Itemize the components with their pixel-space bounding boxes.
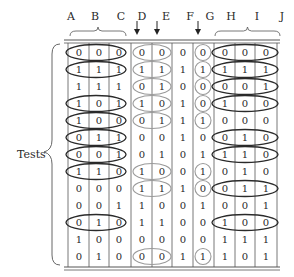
matrix-cell: 1 [109,129,129,146]
matrix-cell: 0 [89,44,109,61]
matrix-cell: 1 [152,112,172,129]
matrix-cell: 1 [215,146,235,163]
matrix-cell: 0 [235,248,255,265]
matrix-cell: 1 [69,61,89,78]
matrix-cell: 1 [256,231,276,248]
matrix-cell: 0 [152,95,172,112]
matrix-cell: 0 [256,214,276,231]
matrix-cell: 1 [132,180,152,197]
matrix-cell: 1 [152,61,172,78]
matrix-cell: 0 [173,44,193,61]
matrix-cell: 0 [109,214,129,231]
matrix-cell: 1 [173,95,193,112]
matrix-cell: 0 [89,112,109,129]
matrix-cell: 0 [256,129,276,146]
matrix-cell: 1 [215,231,235,248]
matrix-cell: 0 [89,146,109,163]
matrix-cell: 1 [193,197,213,214]
matrix-cell: 0 [256,112,276,129]
matrix-cell: 0 [109,180,129,197]
matrix-cell: 1 [109,61,129,78]
matrix-cell: 0 [109,112,129,129]
matrix-cell: 0 [193,214,213,231]
matrix-cell: 0 [132,231,152,248]
matrix-cell: 1 [256,180,276,197]
matrix-cell: 1 [173,129,193,146]
row-label-tests: Tests [17,148,46,161]
matrix-cell: 0 [109,231,129,248]
matrix-cell: 1 [235,163,255,180]
matrix-cell: 0 [69,197,89,214]
matrix-cell: 0 [256,163,276,180]
matrix-cell: 1 [256,61,276,78]
matrix-cell: 0 [235,95,255,112]
matrix-cell: 1 [132,95,152,112]
matrix-cell: 1 [215,61,235,78]
matrix-cell: 1 [193,163,213,180]
matrix-cell: 1 [89,248,109,265]
matrix-cell: 1 [256,78,276,95]
matrix-cell: 1 [89,129,109,146]
matrix-cell: 0 [235,112,255,129]
matrix-cell: 0 [69,214,89,231]
matrix-cell: 1 [69,163,89,180]
matrix-cell: 1 [152,180,172,197]
matrix-cell: 0 [193,231,213,248]
matrix-cell: 1 [109,95,129,112]
matrix-cell: 0 [89,180,109,197]
matrix-cell: 1 [152,78,172,95]
column-header-f: F [186,10,194,23]
matrix-cell: 0 [152,248,172,265]
column-header-j: J [280,10,284,23]
matrix-cell: 1 [132,61,152,78]
matrix-cell: 0 [89,197,109,214]
column-header-a: A [67,10,75,23]
column-header-e: E [162,10,170,23]
matrix-cell: 0 [152,129,172,146]
matrix-cell: 0 [193,95,213,112]
matrix-cell: 1 [89,163,109,180]
matrix-cell: 1 [69,78,89,95]
matrix-cell: 1 [235,146,255,163]
matrix-cell: 0 [235,197,255,214]
matrix-cell: 0 [69,44,89,61]
matrix-cell: 1 [69,112,89,129]
matrix-cell: 1 [109,197,129,214]
matrix-cell: 0 [152,44,172,61]
matrix-cell: 1 [235,180,255,197]
matrix-cell: 0 [69,129,89,146]
matrix-cell: 0 [173,231,193,248]
matrix-cell: 0 [69,180,89,197]
matrix-cell: 1 [193,112,213,129]
matrix-cell: 1 [235,129,255,146]
matrix-cell: 0 [89,231,109,248]
matrix-cell: 1 [256,248,276,265]
matrix-cell: 1 [69,231,89,248]
matrix-cell: 0 [256,95,276,112]
matrix-cell: 1 [132,163,152,180]
matrix-cell: 0 [173,146,193,163]
matrix-cell: 1 [152,214,172,231]
matrix-cell: 0 [256,146,276,163]
matrix-cell: 0 [193,44,213,61]
matrix-cell: 0 [152,163,172,180]
matrix-cell: 0 [215,78,235,95]
matrix-cell: 0 [132,44,152,61]
matrix-cell: 0 [256,44,276,61]
matrix-cell: 1 [109,146,129,163]
matrix-cell: 0 [215,44,235,61]
matrix-cell: 0 [152,231,172,248]
matrix-cell: 0 [69,248,89,265]
matrix-cell: 1 [152,146,172,163]
matrix-cell: 0 [235,44,255,61]
matrix-cell: 1 [193,146,213,163]
column-header-g: G [206,10,215,23]
matrix-cell: 1 [235,231,255,248]
matrix-cell: 0 [235,214,255,231]
matrix-cell: 0 [89,95,109,112]
matrix-cell: 1 [132,197,152,214]
matrix-cell: 0 [215,112,235,129]
matrix-cell: 0 [109,44,129,61]
matrix-cell: 0 [109,163,129,180]
matrix-cell: 1 [69,95,89,112]
